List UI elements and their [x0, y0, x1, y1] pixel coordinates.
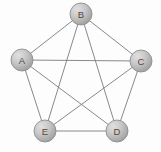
graph-node-d[interactable]: D: [106, 120, 128, 142]
graph-edge-c-e: [45, 61, 141, 131]
graph-node-e[interactable]: E: [34, 120, 56, 142]
node-circle-d: [106, 120, 128, 142]
node-layer: BACED: [11, 3, 152, 142]
graph-edge-b-e: [45, 14, 81, 131]
graph-figure: BACED: [0, 0, 161, 152]
graph-canvas: BACED: [0, 0, 161, 152]
node-circle-b: [70, 3, 92, 25]
edge-layer: [22, 14, 141, 131]
node-circle-e: [34, 120, 56, 142]
graph-node-a[interactable]: A: [11, 49, 33, 71]
graph-edge-a-c: [22, 60, 141, 61]
graph-node-b[interactable]: B: [70, 3, 92, 25]
graph-edge-b-d: [81, 14, 117, 131]
graph-edge-a-d: [22, 60, 117, 131]
graph-node-c[interactable]: C: [130, 50, 152, 72]
node-circle-c: [130, 50, 152, 72]
node-circle-a: [11, 49, 33, 71]
